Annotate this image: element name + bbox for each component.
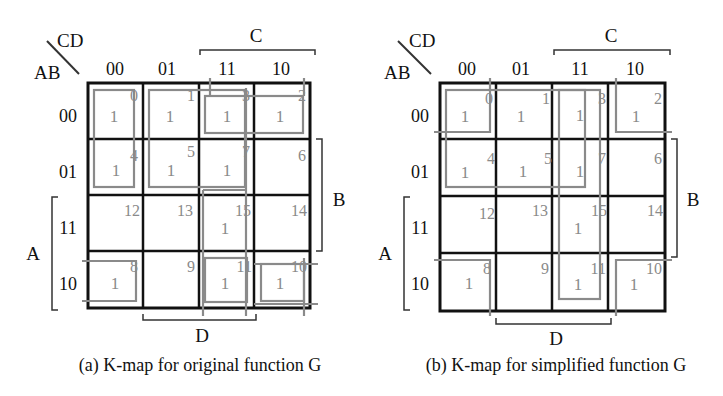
col-label: 11: [571, 59, 588, 79]
minterm-index: 15: [591, 202, 607, 219]
col-var-label: CD: [409, 30, 435, 51]
col-label: 10: [626, 59, 644, 79]
cell-value: 1: [461, 107, 470, 126]
group-loop-m8-wrap: [82, 261, 136, 301]
cell-value: 1: [221, 219, 230, 238]
minterm-index: 13: [177, 202, 193, 219]
cell-value: 1: [574, 275, 583, 294]
cell-value: 1: [461, 163, 470, 182]
minterm-index: 0: [130, 87, 138, 104]
minterm-index: 5: [544, 150, 552, 167]
bracket-d-label: D: [549, 328, 563, 349]
minterm-index: 4: [487, 150, 495, 167]
minterm-index: 0: [485, 90, 493, 107]
kmap-b: CD AB 00 01 11 10 00 01 11 10 C B A D: [378, 25, 699, 376]
cell-value: 1: [223, 107, 232, 126]
bracket-b-label: B: [333, 189, 346, 210]
bracket-a-label: A: [378, 243, 392, 264]
cell-value: 1: [221, 274, 230, 293]
minterm-index: 9: [187, 258, 195, 275]
bracket-b: [316, 139, 322, 251]
bracket-d: [496, 318, 611, 324]
cell-value: 1: [167, 161, 176, 180]
cell-value: 1: [110, 107, 119, 126]
cell-value: 1: [111, 274, 120, 293]
cell-value: 1: [223, 161, 232, 180]
row-label: 10: [411, 274, 429, 294]
cell-value: 1: [276, 107, 285, 126]
minterm-index: 13: [532, 202, 548, 219]
bracket-a: [52, 197, 58, 310]
minterm-index: 12: [124, 202, 140, 219]
minterm-index: 1: [542, 90, 550, 107]
cell-value: 1: [576, 162, 585, 181]
minterm-index: 6: [654, 150, 662, 167]
bracket-b-label: B: [687, 189, 700, 210]
minterm-index: 6: [298, 147, 306, 164]
minterm-index: 7: [242, 143, 250, 160]
row-label: 01: [59, 162, 77, 182]
bracket-b: [671, 139, 677, 257]
minterm-index: 14: [647, 202, 663, 219]
bracket-d-label: D: [195, 325, 209, 346]
minterm-index: 2: [298, 87, 306, 104]
cell-value: 1: [632, 107, 641, 126]
row-var-label: AB: [34, 62, 60, 83]
minterm-index: 8: [130, 258, 138, 275]
minterm-index: 3: [242, 87, 250, 104]
minterm-index: 14: [291, 202, 307, 219]
bracket-c-label: C: [250, 25, 263, 46]
cell-value: 1: [576, 106, 585, 125]
row-label: 11: [411, 218, 428, 238]
kmap-a: CD AB 00 01 11 10 00 01 11 10 C B A D: [26, 25, 345, 376]
row-var-label: AB: [384, 62, 410, 83]
minterm-index: 9: [541, 260, 549, 277]
kmap-figure: CD AB 00 01 11 10 00 01 11 10 C B A D: [0, 0, 723, 396]
cell-value: 1: [630, 275, 639, 294]
cell-value: 1: [519, 162, 528, 181]
col-label: 01: [158, 59, 176, 79]
minterm-index: 2: [654, 90, 662, 107]
bracket-c-label: C: [605, 25, 618, 46]
col-label: 00: [458, 59, 476, 79]
row-label: 11: [59, 218, 76, 238]
caption: (a) K-map for original function G: [79, 355, 321, 376]
col-var-label: CD: [57, 30, 83, 51]
bracket-a: [404, 197, 410, 310]
minterm-index: 1: [187, 87, 195, 104]
bracket-c: [554, 50, 670, 55]
cell-value: 1: [166, 107, 175, 126]
cell-value: 1: [517, 107, 526, 126]
minterm-index: 11: [591, 260, 606, 277]
bracket-a-label: A: [26, 243, 40, 264]
cell-value: 1: [276, 274, 285, 293]
row-label: 01: [411, 162, 429, 182]
minterm-index: 10: [646, 260, 662, 277]
minterm-index: 4: [130, 147, 138, 164]
minterm-index: 15: [235, 202, 251, 219]
minterm-index: 12: [479, 205, 495, 222]
cell-value: 1: [465, 274, 474, 293]
minterm-index: 7: [598, 150, 606, 167]
bracket-c: [200, 50, 315, 55]
cell-value: 1: [574, 219, 583, 238]
col-label: 00: [106, 59, 124, 79]
cell-value: 1: [112, 161, 121, 180]
minterm-index: 5: [187, 143, 195, 160]
minterm-index: 11: [237, 258, 252, 275]
bracket-d: [143, 314, 256, 320]
minterm-index: 10: [291, 258, 307, 275]
col-label: 01: [512, 59, 530, 79]
row-label: 00: [59, 106, 77, 126]
group-loop-corner-m8: [434, 260, 490, 316]
minterm-index: 3: [598, 90, 606, 107]
col-label: 10: [272, 59, 290, 79]
col-label: 11: [218, 59, 235, 79]
minterm-index: 8: [483, 260, 491, 277]
caption: (b) K-map for simplified function G: [426, 355, 686, 376]
row-label: 00: [411, 106, 429, 126]
row-label: 10: [59, 274, 77, 294]
